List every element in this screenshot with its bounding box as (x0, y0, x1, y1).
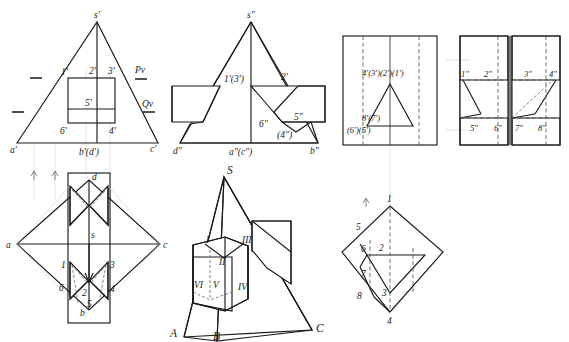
top-view-guide-3 (108, 186, 160, 244)
pictorial-flap (252, 221, 291, 284)
label-top-3: 3 (109, 260, 115, 270)
label-dia-8: 8 (357, 291, 362, 301)
panel-diamond-labels: 1 2 3 4 5 6 7 8 (356, 194, 392, 326)
side-notch-left-block (172, 86, 220, 122)
label-pic-s: S (227, 164, 233, 176)
label-aux-right-3: 3" (523, 69, 532, 79)
label-aux-left-mid: 8'(7') (362, 113, 380, 123)
panel-aux-left-labels: 4'(3')(2')(1') 8'(7') (6')(5') (347, 68, 404, 135)
panel-pictorial (184, 177, 312, 341)
label-dia-7: 7 (361, 269, 367, 279)
top-view-guide-1 (17, 186, 70, 244)
label-pic-iii: III (241, 235, 252, 245)
label-front-notch-tm: 2' (89, 66, 97, 76)
label-dia-2: 2 (379, 243, 384, 253)
label-aux-right-2: 2" (484, 69, 492, 79)
label-front-notch-c: 5' (85, 98, 93, 108)
label-pic-a: A (169, 327, 178, 339)
label-front-notch-bl: 6' (60, 126, 68, 136)
label-dia-4: 4 (387, 316, 392, 326)
label-pic-iv: IV (237, 282, 248, 292)
label-top-a: a (6, 240, 11, 250)
label-front-notch-tl: 1' (61, 67, 69, 77)
top-view-dir-arrow-1 (31, 171, 37, 180)
label-side-edge-right: 2' (281, 72, 289, 82)
top-view-guide-4 (108, 244, 160, 299)
label-front-base-right: c' (150, 144, 157, 154)
top-view-dir-arrow-2 (52, 171, 58, 180)
label-side-notch-lm: (4") (277, 130, 292, 141)
label-top-1: 1 (61, 260, 66, 270)
label-front-base-left: a' (10, 145, 18, 155)
label-top-d: d (92, 172, 97, 182)
label-top-c: c (163, 240, 168, 250)
panel-front-view (12, 22, 158, 143)
label-aux-right-8: 8" (538, 123, 546, 133)
side-notch-right-block (251, 86, 325, 122)
aux-right-notch-left (460, 80, 508, 118)
label-aux-left-top: 4'(3')(2')(1') (362, 68, 404, 78)
label-aux-right-6: 6" (494, 123, 502, 133)
label-side-base-mid: a"(c") (229, 147, 252, 158)
drawing-sheet: s' a' b'(d') c' 1' 2' 3' 5' 6' 4' Pv Qv (0, 0, 569, 342)
diamond-dir-arrow (363, 198, 369, 207)
label-side-notch-ll: 6" (259, 119, 269, 129)
label-top-s: s (91, 230, 95, 240)
label-front-notch-br: 4' (109, 126, 117, 136)
label-pic-b: B (213, 330, 220, 342)
label-front-trace-qv: Qv (142, 99, 154, 109)
panel-side-labels: s" d" a"(c") b" 1'(3') 2' 5" 6" (4") (173, 10, 320, 158)
label-aux-right-5: 5" (470, 123, 478, 133)
label-top-6: 6 (59, 283, 64, 293)
label-pic-c: C (316, 322, 324, 334)
label-top-b: b (80, 308, 85, 318)
side-triangle (180, 22, 318, 143)
diamond-edge-a (360, 255, 367, 267)
label-side-base-right: b" (310, 146, 320, 156)
pictorial-cube-body (193, 237, 248, 311)
label-front-trace-pv: Pv (134, 65, 146, 75)
label-pic-vi: VI (194, 280, 204, 290)
label-front-base-mid: b'(d') (79, 147, 99, 158)
diamond-inner-triangle (367, 255, 425, 293)
label-aux-right-4: 4" (549, 69, 557, 79)
label-aux-right-1: 1" (461, 69, 469, 79)
label-aux-right-7: 7" (515, 123, 523, 133)
label-pic-ii: II (218, 257, 226, 267)
label-top-5: 5 (87, 299, 92, 309)
side-bottom-edge-left (180, 124, 190, 143)
label-dia-5: 5 (356, 222, 361, 232)
label-side-face: 5" (294, 112, 304, 122)
label-dia-3: 3 (381, 288, 387, 298)
label-front-notch-tr: 3' (107, 66, 116, 76)
label-top-2: 2 (82, 288, 87, 298)
drawing-canvas: s' a' b'(d') c' 1' 2' 3' 5' 6' 4' Pv Qv (0, 0, 569, 342)
label-front-apex: s' (94, 10, 101, 20)
label-dia-6: 6 (361, 244, 366, 254)
label-side-edge-left: 1'(3') (224, 74, 244, 85)
diamond-edge-c (374, 297, 390, 312)
label-top-4: 4 (110, 284, 115, 294)
label-dia-1: 1 (387, 194, 392, 204)
label-side-apex: s" (247, 10, 256, 20)
panel-side-view (172, 22, 325, 143)
label-side-base-left: d" (173, 146, 183, 156)
label-aux-left-bottom: (6')(5') (347, 125, 371, 135)
